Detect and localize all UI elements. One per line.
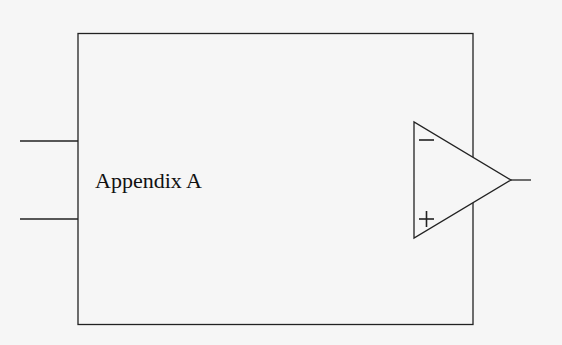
- schematic-diagram: [0, 0, 562, 345]
- block-label: Appendix A: [95, 170, 202, 192]
